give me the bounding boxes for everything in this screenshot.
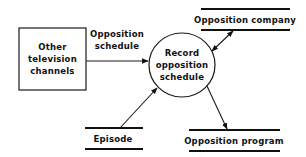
process-label-line-1: Record — [165, 48, 200, 58]
flow-label-line-1: Opposition — [90, 29, 144, 39]
flow-arrow-bidirectional — [212, 31, 233, 51]
flow-process-opposition-program — [207, 86, 227, 129]
flow-label-line-2: schedule — [95, 41, 139, 51]
data-store-episode: Episode — [85, 128, 143, 149]
external-entity-label-line-3: channels — [30, 66, 74, 76]
external-entity-label-line-1: Other — [38, 42, 67, 52]
external-entity-label-line-2: television — [28, 54, 77, 64]
flow-arrow — [207, 86, 227, 129]
flow-episode-process — [120, 88, 157, 128]
process-label-line-2: opposition — [156, 60, 209, 70]
process-record-opposition-schedule: Record opposition schedule — [149, 33, 215, 97]
process-label-line-3: schedule — [160, 72, 204, 82]
external-entity-other-television-channels: Other television channels — [19, 28, 86, 90]
data-flow-diagram: Other television channels Record opposit… — [0, 0, 306, 157]
data-store-opposition-company: Opposition company — [194, 9, 296, 30]
flow-arrow — [120, 88, 157, 128]
data-store-opposition-program: Opposition program — [184, 130, 284, 151]
data-store-label: Opposition program — [184, 136, 284, 146]
flow-opposition-schedule: Opposition schedule — [86, 29, 148, 61]
data-store-label: Opposition company — [194, 15, 296, 25]
flow-process-opposition-company — [212, 31, 233, 51]
data-store-label: Episode — [94, 134, 133, 144]
